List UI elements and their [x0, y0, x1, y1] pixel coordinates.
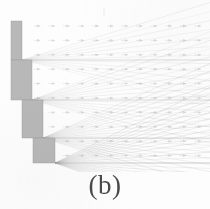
figure-panel: (b) — [0, 0, 210, 209]
figure-caption: (b) — [0, 168, 210, 202]
ray-diagram-svg — [0, 0, 210, 172]
plot-area — [0, 0, 210, 172]
